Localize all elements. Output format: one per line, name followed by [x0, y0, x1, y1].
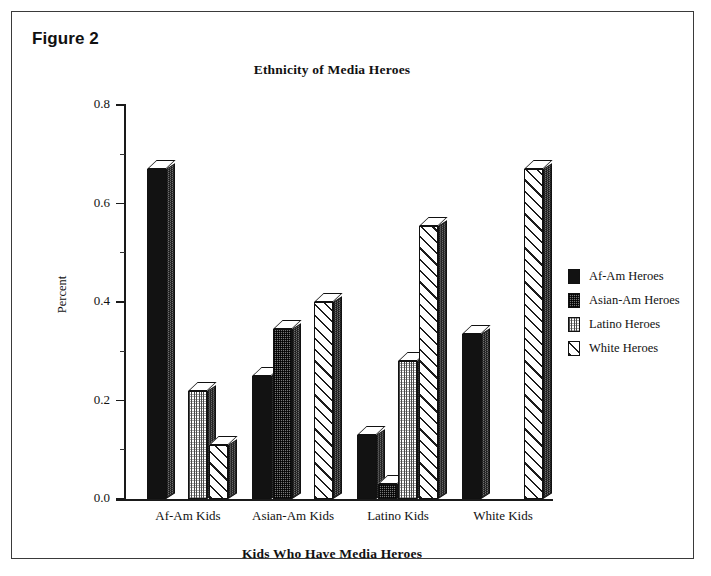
y-tick-label: 0.0	[62, 490, 110, 506]
bar-side-face	[438, 220, 447, 499]
legend-item-af-am-heroes: Af-Am Heroes	[568, 264, 698, 288]
legend-item-white-heroes: White Heroes	[568, 336, 698, 360]
bar-asian-am-kids-af-am-heroes	[252, 376, 271, 499]
bar-front-face	[147, 169, 166, 499]
bar-side-face	[166, 163, 175, 499]
bar-asian-am-kids-white-heroes	[314, 302, 333, 499]
x-axis-line	[116, 499, 553, 501]
bar-front-face	[252, 376, 271, 499]
bar-side-face	[292, 323, 301, 499]
legend-swatch-icon	[568, 341, 580, 356]
chart-legend: Af-Am HeroesAsian-Am HeroesLatino Heroes…	[568, 264, 698, 360]
legend-item-asian-am-heroes: Asian-Am Heroes	[568, 288, 698, 312]
bar-front-face	[378, 484, 397, 499]
bar-latino-kids-af-am-heroes	[357, 435, 376, 499]
legend-item-label: Asian-Am Heroes	[589, 293, 680, 308]
bar-front-face	[462, 334, 481, 499]
bar-front-face	[357, 435, 376, 499]
bar-asian-am-kids-asian-am-heroes	[273, 329, 292, 499]
bar-white-kids-white-heroes	[524, 169, 543, 499]
bar-front-face	[209, 445, 228, 499]
bar-latino-kids-asian-am-heroes	[378, 484, 397, 499]
y-tick-major	[116, 301, 125, 303]
figure-frame: Figure 2 Ethnicity of Media Heroes Perce…	[11, 11, 694, 559]
y-tick-label: 0.2	[62, 392, 110, 408]
bar-side-face	[543, 163, 552, 499]
figure-caption-label: Figure 2	[32, 29, 99, 49]
legend-swatch-icon	[568, 317, 580, 332]
bar-front-face	[314, 302, 333, 499]
y-tick-label: 0.8	[62, 96, 110, 112]
bar-front-face	[273, 329, 292, 499]
y-tick-label: 0.6	[62, 195, 110, 211]
bar-white-kids-af-am-heroes	[462, 334, 481, 499]
bar-side-face	[333, 296, 342, 499]
bar-front-face	[398, 361, 417, 499]
figure-page: Figure 2 Ethnicity of Media Heroes Perce…	[0, 0, 711, 576]
y-tick-major	[116, 498, 125, 500]
x-category-label-asian-am-kids: Asian-Am Kids	[233, 508, 353, 524]
x-axis-title: Kids Who Have Media Heroes	[12, 546, 652, 562]
legend-swatch-icon	[568, 269, 580, 284]
bar-latino-kids-latino-heroes	[398, 361, 417, 499]
y-tick-label: 0.4	[62, 293, 110, 309]
y-tick-major	[116, 104, 125, 106]
legend-item-label: White Heroes	[589, 341, 658, 356]
chart-title: Ethnicity of Media Heroes	[12, 62, 652, 78]
bar-front-face	[188, 391, 207, 499]
legend-swatch-icon	[568, 293, 580, 308]
bar-side-face	[228, 439, 237, 499]
bar-latino-kids-white-heroes	[419, 226, 438, 499]
bar-af-am-kids-af-am-heroes	[147, 169, 166, 499]
bar-side-face	[481, 328, 490, 499]
legend-item-latino-heroes: Latino Heroes	[568, 312, 698, 336]
x-category-label-af-am-kids: Af-Am Kids	[128, 508, 248, 524]
x-category-label-latino-kids: Latino Kids	[338, 508, 458, 524]
bar-front-face	[524, 169, 543, 499]
bar-front-face	[419, 226, 438, 499]
bar-af-am-kids-white-heroes	[209, 445, 228, 499]
legend-item-label: Latino Heroes	[589, 317, 660, 332]
plot-area	[125, 105, 549, 499]
y-tick-major	[116, 203, 125, 205]
x-category-label-white-kids: White Kids	[443, 508, 563, 524]
bar-af-am-kids-latino-heroes	[188, 391, 207, 499]
legend-item-label: Af-Am Heroes	[589, 269, 664, 284]
y-tick-major	[116, 400, 125, 402]
